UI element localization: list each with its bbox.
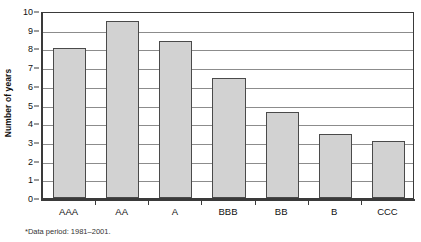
y-tick-mark bbox=[34, 180, 39, 181]
x-tick-mark bbox=[95, 200, 96, 205]
y-tick-mark bbox=[34, 124, 39, 125]
gridline bbox=[43, 50, 413, 51]
bar-a[interactable] bbox=[159, 41, 192, 198]
x-tick-mark bbox=[148, 200, 149, 205]
y-tick-mark bbox=[34, 12, 39, 13]
x-tick-mark bbox=[201, 200, 202, 205]
bar-ccc[interactable] bbox=[372, 141, 405, 198]
y-tick-mark bbox=[34, 161, 39, 162]
gridline bbox=[43, 32, 413, 33]
x-tick-label-aa: AA bbox=[115, 206, 128, 217]
y-axis-ticks: 109876543210 bbox=[0, 0, 42, 242]
y-tick-label: 1 bbox=[28, 175, 33, 185]
gridline bbox=[43, 69, 413, 70]
bar-aa[interactable] bbox=[106, 21, 139, 198]
y-tick-mark bbox=[34, 86, 39, 87]
y-tick-mark bbox=[34, 30, 39, 31]
y-tick-label: 9 bbox=[28, 26, 33, 36]
y-tick-mark bbox=[34, 199, 39, 200]
x-tick-label-a: A bbox=[172, 206, 178, 217]
y-tick-label: 3 bbox=[28, 138, 33, 148]
bar-b[interactable] bbox=[319, 134, 352, 199]
y-tick-label: 6 bbox=[28, 82, 33, 92]
y-tick-label: 5 bbox=[28, 101, 33, 111]
x-tick-mark bbox=[308, 200, 309, 205]
x-tick-label-bbb: BBB bbox=[218, 206, 237, 217]
bar-bb[interactable] bbox=[266, 112, 299, 198]
plot-area bbox=[42, 12, 414, 199]
y-tick-mark bbox=[34, 49, 39, 50]
x-tick-label-ccc: CCC bbox=[377, 206, 398, 217]
x-tick-mark bbox=[255, 200, 256, 205]
y-tick-label: 10 bbox=[23, 7, 33, 17]
footnote: *Data period: 1981–2001. bbox=[25, 227, 111, 236]
bar-bbb[interactable] bbox=[212, 78, 245, 198]
x-tick-label-bb: BB bbox=[275, 206, 288, 217]
y-tick-label: 0 bbox=[28, 194, 33, 204]
y-tick-mark bbox=[34, 142, 39, 143]
bar-aaa[interactable] bbox=[53, 48, 86, 198]
x-axis-line bbox=[41, 199, 415, 201]
x-tick-mark bbox=[361, 200, 362, 205]
bar-chart-figure: Number of years 109876543210 AAAAAABBBBB… bbox=[0, 0, 421, 242]
y-tick-mark bbox=[34, 105, 39, 106]
y-tick-label: 2 bbox=[28, 157, 33, 167]
y-tick-label: 8 bbox=[28, 44, 33, 54]
y-tick-label: 7 bbox=[28, 63, 33, 73]
y-tick-mark bbox=[34, 68, 39, 69]
x-tick-label-aaa: AAA bbox=[59, 206, 78, 217]
y-tick-label: 4 bbox=[28, 119, 33, 129]
x-tick-label-b: B bbox=[331, 206, 337, 217]
